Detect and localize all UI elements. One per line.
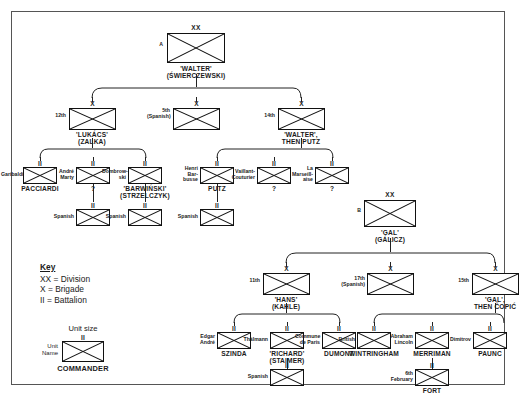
unit-side-label: Edgar André: [194, 334, 215, 345]
unit-symbol-box: [270, 369, 304, 386]
unit-size-label: X: [263, 265, 310, 272]
connector-brace-bde-15: [372, 312, 506, 323]
unit-side-label: Spanish: [103, 214, 126, 220]
unit-size-label: XX: [167, 24, 225, 31]
legend-sample-symbol: II: [62, 334, 104, 341]
connector-brace-bde-14: [215, 147, 335, 158]
unit-symbol-box: [315, 167, 349, 184]
unit-symbol-box: [473, 332, 507, 349]
unit-size-label: II: [128, 160, 162, 167]
unit-symbol-box: [200, 209, 234, 226]
unit-size-label: II: [200, 202, 234, 209]
connector-div-b-stem: [390, 238, 391, 252]
unit-commander-label: 'GAL', THEN ČOPIĆ: [420, 296, 523, 311]
connector-bn-spanish-1-stem: [93, 184, 94, 202]
unit-symbol-box: [173, 108, 220, 130]
unit-size-label: II: [200, 160, 234, 167]
unit-size-label: II: [76, 202, 110, 209]
unit-side-label: Vaillant- Couturier: [229, 169, 255, 180]
unit-symbol-box: [357, 332, 391, 349]
unit-size-label: II: [415, 362, 449, 369]
connector-bn-spanish-3-stem: [217, 184, 218, 202]
unit-size-label: X: [69, 100, 116, 107]
legend-sample-commander-label: COMMANDER: [23, 364, 143, 373]
legend-key: Key XX = Division X = Brigade II = Batta…: [40, 262, 90, 305]
unit-side-label: Spanish: [245, 374, 268, 380]
unit-size-label: X: [367, 265, 414, 272]
unit-symbol-box: [472, 273, 519, 295]
unit-size-label: II: [357, 325, 391, 332]
unit-size-label: X: [278, 100, 325, 107]
legend-sample-size-label: Unit size: [38, 324, 128, 333]
unit-side-label: Thälmann: [243, 337, 268, 343]
unit-side-label: 11th: [239, 278, 260, 284]
unit-side-label: Spanish: [175, 214, 198, 220]
unit-side-label: Abraham Lincoln: [388, 334, 413, 345]
unit-symbol-box: [415, 369, 449, 386]
unit-side-label: 6th February: [388, 371, 413, 382]
unit-size-label: II: [270, 362, 304, 369]
unit-symbol-box: [415, 332, 449, 349]
unit-symbol-box: [263, 273, 310, 295]
unit-size-label: II: [257, 160, 291, 167]
unit-side-label: 15th: [448, 278, 469, 284]
unit-size-label: XX: [364, 191, 416, 198]
unit-size-label: II: [415, 325, 449, 332]
unit-symbol-box: [128, 209, 162, 226]
legend-line-battalion: II = Battalion: [40, 295, 90, 306]
legend-line-division: XX = Division: [40, 274, 90, 285]
unit-size-label: X: [472, 265, 519, 272]
unit-side-label: 12th: [45, 113, 66, 119]
unit-symbol-box: [128, 167, 162, 184]
unit-size-label: II: [270, 325, 304, 332]
unit-size-label: X: [173, 100, 220, 107]
unit-side-label: 14th: [254, 113, 275, 119]
unit-symbol-box: [367, 273, 414, 295]
unit-side-label: Commune de Paris: [295, 334, 320, 345]
unit-side-label: Henri Bar- busse: [178, 166, 198, 183]
unit-side-label: 5th (Spanish): [147, 108, 170, 119]
unit-symbol-box: [364, 200, 416, 227]
unit-side-label: Dombrow- ski: [102, 169, 126, 180]
unit-side-label: Garibaldi: [1, 172, 21, 178]
unit-side-label: La Marseill- aise: [289, 166, 313, 183]
unit-size-label: II: [128, 202, 162, 209]
unit-size-label: II: [217, 325, 251, 332]
unit-side-label: 17th (Spanish): [337, 276, 365, 287]
legend-title: Key: [40, 262, 90, 273]
unit-symbol-box: [23, 167, 57, 184]
unit-size-label: II: [23, 160, 57, 167]
unit-commander-label: FORT: [357, 387, 507, 394]
unit-size-label: II: [315, 160, 349, 167]
org-chart-frame: XX A 'WALTER' (ŚWIERCZEWSKI) X 12th 'LUK…: [11, 11, 505, 385]
legend-line-brigade: X = Brigade: [40, 284, 90, 295]
unit-size-label: II: [76, 160, 110, 167]
unit-size-label: II: [322, 325, 356, 332]
unit-commander-label: PAUNC: [415, 350, 523, 357]
legend-sample-side-label: Unit Name: [18, 343, 58, 356]
unit-side-label: Dimitrov: [448, 337, 471, 343]
unit-symbol-box: [69, 108, 116, 130]
unit-side-label: Spanish: [51, 214, 74, 220]
legend-sample-box: [62, 341, 104, 362]
unit-side-label: André Marty: [53, 169, 74, 180]
unit-side-label: B: [342, 208, 361, 214]
unit-symbol-box: [167, 33, 225, 63]
unit-side-label: British: [335, 337, 355, 343]
unit-size-label: II: [473, 325, 507, 332]
unit-side-label: A: [141, 42, 163, 48]
unit-symbol-box: [257, 167, 291, 184]
unit-symbol-box: [278, 108, 325, 130]
